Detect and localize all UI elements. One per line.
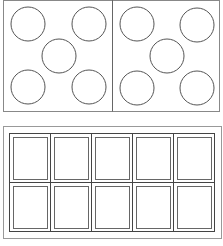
top-panel bbox=[4, 0, 220, 112]
circle bbox=[150, 39, 184, 73]
circle bbox=[11, 7, 45, 41]
cell bbox=[14, 138, 48, 180]
cell bbox=[96, 138, 130, 180]
circle bbox=[180, 8, 214, 42]
circle bbox=[120, 71, 154, 105]
circle bbox=[42, 39, 76, 73]
circle bbox=[180, 71, 214, 105]
cell bbox=[55, 187, 89, 229]
cell bbox=[178, 138, 212, 180]
circle bbox=[72, 70, 106, 104]
bottom-panel bbox=[4, 127, 222, 239]
left-half-circles bbox=[11, 7, 106, 104]
right-half-circles bbox=[120, 7, 214, 105]
top-panel-border bbox=[4, 1, 220, 112]
cell bbox=[96, 187, 130, 229]
cell bbox=[14, 187, 48, 229]
cell bbox=[178, 187, 212, 229]
circle bbox=[120, 7, 154, 41]
cell bbox=[55, 138, 89, 180]
ten-frame-dividers bbox=[10, 134, 215, 232]
cell bbox=[137, 138, 171, 180]
diagram-canvas bbox=[0, 0, 223, 246]
circle bbox=[72, 7, 106, 41]
cell bbox=[137, 187, 171, 229]
circle bbox=[11, 70, 45, 104]
